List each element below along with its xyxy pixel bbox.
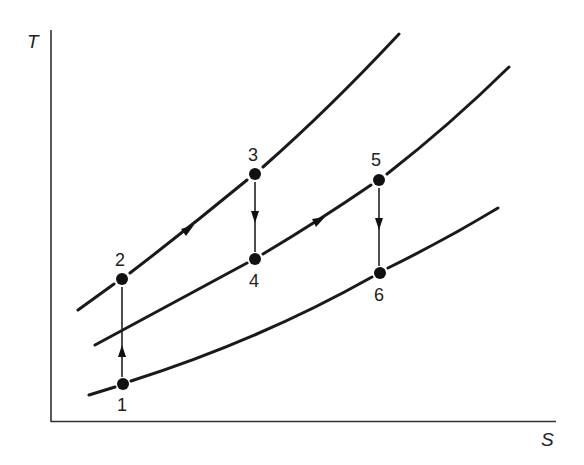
ts-diagram: T S 1 2 3 4 5 6 (0, 0, 584, 465)
arrow-down-icon (251, 211, 259, 223)
arrow-down-icon (375, 218, 383, 230)
state-label-6: 6 (374, 285, 384, 305)
state-point-4 (249, 253, 261, 265)
state-point-5 (373, 174, 385, 186)
state-point-6 (374, 267, 386, 279)
state-point-1 (117, 378, 129, 390)
arrow-up-icon (118, 345, 126, 357)
x-axis-label: S (541, 429, 554, 450)
y-axis-label: T (27, 31, 40, 52)
state-label-3: 3 (248, 145, 258, 165)
state-label-1: 1 (117, 395, 127, 415)
state-point-3 (249, 168, 261, 180)
arrow-right-icon (312, 217, 325, 227)
state-label-5: 5 (371, 150, 381, 170)
state-point-2 (116, 273, 128, 285)
middle-isobar-curve (95, 67, 509, 345)
state-label-2: 2 (115, 250, 125, 270)
state-label-4: 4 (249, 271, 259, 291)
